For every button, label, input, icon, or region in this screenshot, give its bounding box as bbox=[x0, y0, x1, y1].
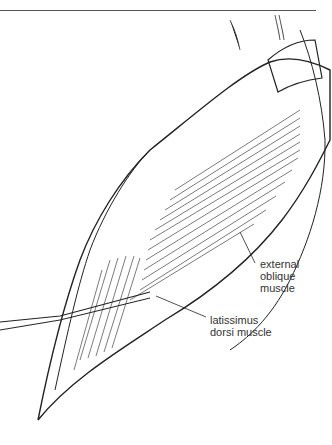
label-line: muscle bbox=[260, 282, 299, 294]
surgical-illustration bbox=[0, 0, 332, 445]
label-latissimus-dorsi: latissimus dorsi muscle bbox=[210, 314, 272, 338]
label-line: external bbox=[260, 258, 299, 270]
label-line: oblique bbox=[260, 270, 299, 282]
label-external-oblique: external oblique muscle bbox=[260, 258, 299, 294]
label-line: latissimus bbox=[210, 314, 272, 326]
label-line: dorsi muscle bbox=[210, 326, 272, 338]
